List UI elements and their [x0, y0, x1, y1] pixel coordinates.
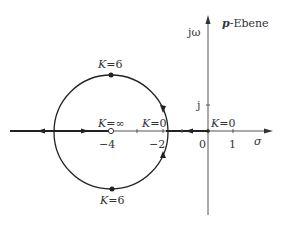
label-k6-bottom: K=6 [99, 194, 124, 207]
arrow-circle-down-icon [160, 151, 166, 158]
y-axis-label: jω [186, 26, 200, 39]
k6-bottom-point [110, 187, 115, 192]
label-k0-origin: K=0 [210, 117, 235, 130]
root-locus-svg: p-Ebene jω j σ −4 −2 0 1 K=6 K=6 K=∞ K=0… [0, 0, 283, 229]
x-tick-label: −2 [149, 138, 165, 151]
x-tick-label: 0 [199, 138, 206, 151]
arrow-circle-up-icon [160, 105, 166, 113]
plane-title: p-Ebene [222, 17, 269, 30]
real-axis-arrow-icon [264, 129, 273, 134]
root-locus-diagram: p-Ebene jω j σ −4 −2 0 1 K=6 K=6 K=∞ K=0… [0, 0, 283, 229]
label-k6-top: K=6 [97, 58, 122, 71]
k6-top-point [109, 73, 114, 78]
x-axis-label: σ [254, 135, 262, 148]
x-tick-label: −4 [99, 138, 115, 151]
x-tick-label: 1 [229, 138, 236, 151]
label-k-infinity: K=∞ [97, 117, 125, 130]
arrow-right-icon [81, 129, 89, 134]
origin-pole [206, 129, 210, 133]
imaginary-axis-arrow-icon [206, 15, 211, 24]
arrow-left-icon [185, 129, 193, 134]
label-k0-left: K=0 [141, 117, 166, 130]
arrow-left-icon [37, 129, 45, 134]
y-tick-label: j [195, 99, 200, 112]
